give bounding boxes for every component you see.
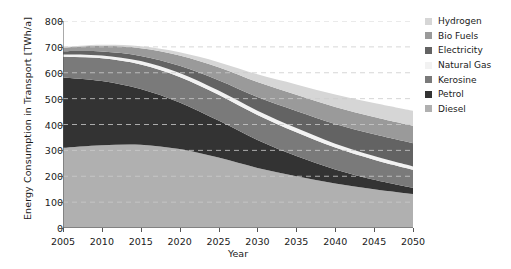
legend-swatch-icon	[425, 76, 432, 83]
y-tick-label: 300	[29, 145, 63, 156]
legend-item-label: Petrol	[438, 89, 464, 99]
x-tick-mark	[413, 228, 414, 232]
chart-figure: Energy Consumption in Transport [TWh/a] …	[0, 0, 511, 269]
y-tick-label: 800	[29, 16, 63, 27]
legend-item-label: Diesel	[438, 104, 466, 114]
legend-item[interactable]: Bio Fuels	[425, 29, 509, 44]
legend-item-label: Kerosine	[438, 75, 476, 85]
x-tick-label: 2005	[43, 236, 83, 247]
x-tick-label: 2010	[82, 236, 122, 247]
legend-item[interactable]: Kerosine	[425, 72, 509, 87]
x-tick-mark	[257, 228, 258, 232]
y-tick-label: 700	[29, 41, 63, 52]
legend-swatch-icon	[425, 62, 432, 69]
legend-item[interactable]: Petrol	[425, 87, 509, 102]
x-tick-mark	[63, 228, 64, 232]
x-tick-mark	[335, 228, 336, 232]
x-tick-mark	[296, 228, 297, 232]
legend-swatch-icon	[425, 18, 432, 25]
x-tick-label: 2035	[276, 236, 316, 247]
legend-item-label: Natural Gas	[438, 60, 491, 70]
y-tick-label: 0	[29, 223, 63, 234]
y-tick-label: 100	[29, 197, 63, 208]
y-tick-label: 500	[29, 93, 63, 104]
legend-item[interactable]: Natural Gas	[425, 58, 509, 73]
x-tick-mark	[102, 228, 103, 232]
legend-swatch-icon	[425, 105, 432, 112]
chart-legend: HydrogenBio FuelsElectricityNatural GasK…	[425, 14, 509, 116]
stacked-area-svg	[63, 21, 413, 228]
x-tick-mark	[141, 228, 142, 232]
x-tick-mark	[219, 228, 220, 232]
x-tick-label: 2030	[237, 236, 277, 247]
x-tick-label: 2015	[121, 236, 161, 247]
x-tick-label: 2045	[354, 236, 394, 247]
legend-swatch-icon	[425, 32, 432, 39]
x-tick-label: 2050	[393, 236, 433, 247]
y-tick-label: 600	[29, 67, 63, 78]
legend-swatch-icon	[425, 47, 432, 54]
legend-item[interactable]: Hydrogen	[425, 14, 509, 29]
plot-area	[63, 21, 413, 228]
x-tick-label: 2020	[160, 236, 200, 247]
legend-item[interactable]: Diesel	[425, 102, 509, 117]
x-axis-ticks: 2005201020152020202520302035204020452050	[63, 228, 413, 252]
y-tick-label: 200	[29, 171, 63, 182]
y-axis-ticks: 0100200300400500600700800	[21, 21, 63, 228]
x-tick-mark	[374, 228, 375, 232]
legend-item-label: Hydrogen	[438, 16, 482, 26]
legend-item[interactable]: Electricity	[425, 43, 509, 58]
legend-item-label: Electricity	[438, 45, 483, 55]
x-tick-mark	[180, 228, 181, 232]
legend-item-label: Bio Fuels	[438, 31, 478, 41]
x-tick-label: 2040	[315, 236, 355, 247]
x-tick-label: 2025	[199, 236, 239, 247]
legend-swatch-icon	[425, 91, 432, 98]
y-tick-label: 400	[29, 119, 63, 130]
